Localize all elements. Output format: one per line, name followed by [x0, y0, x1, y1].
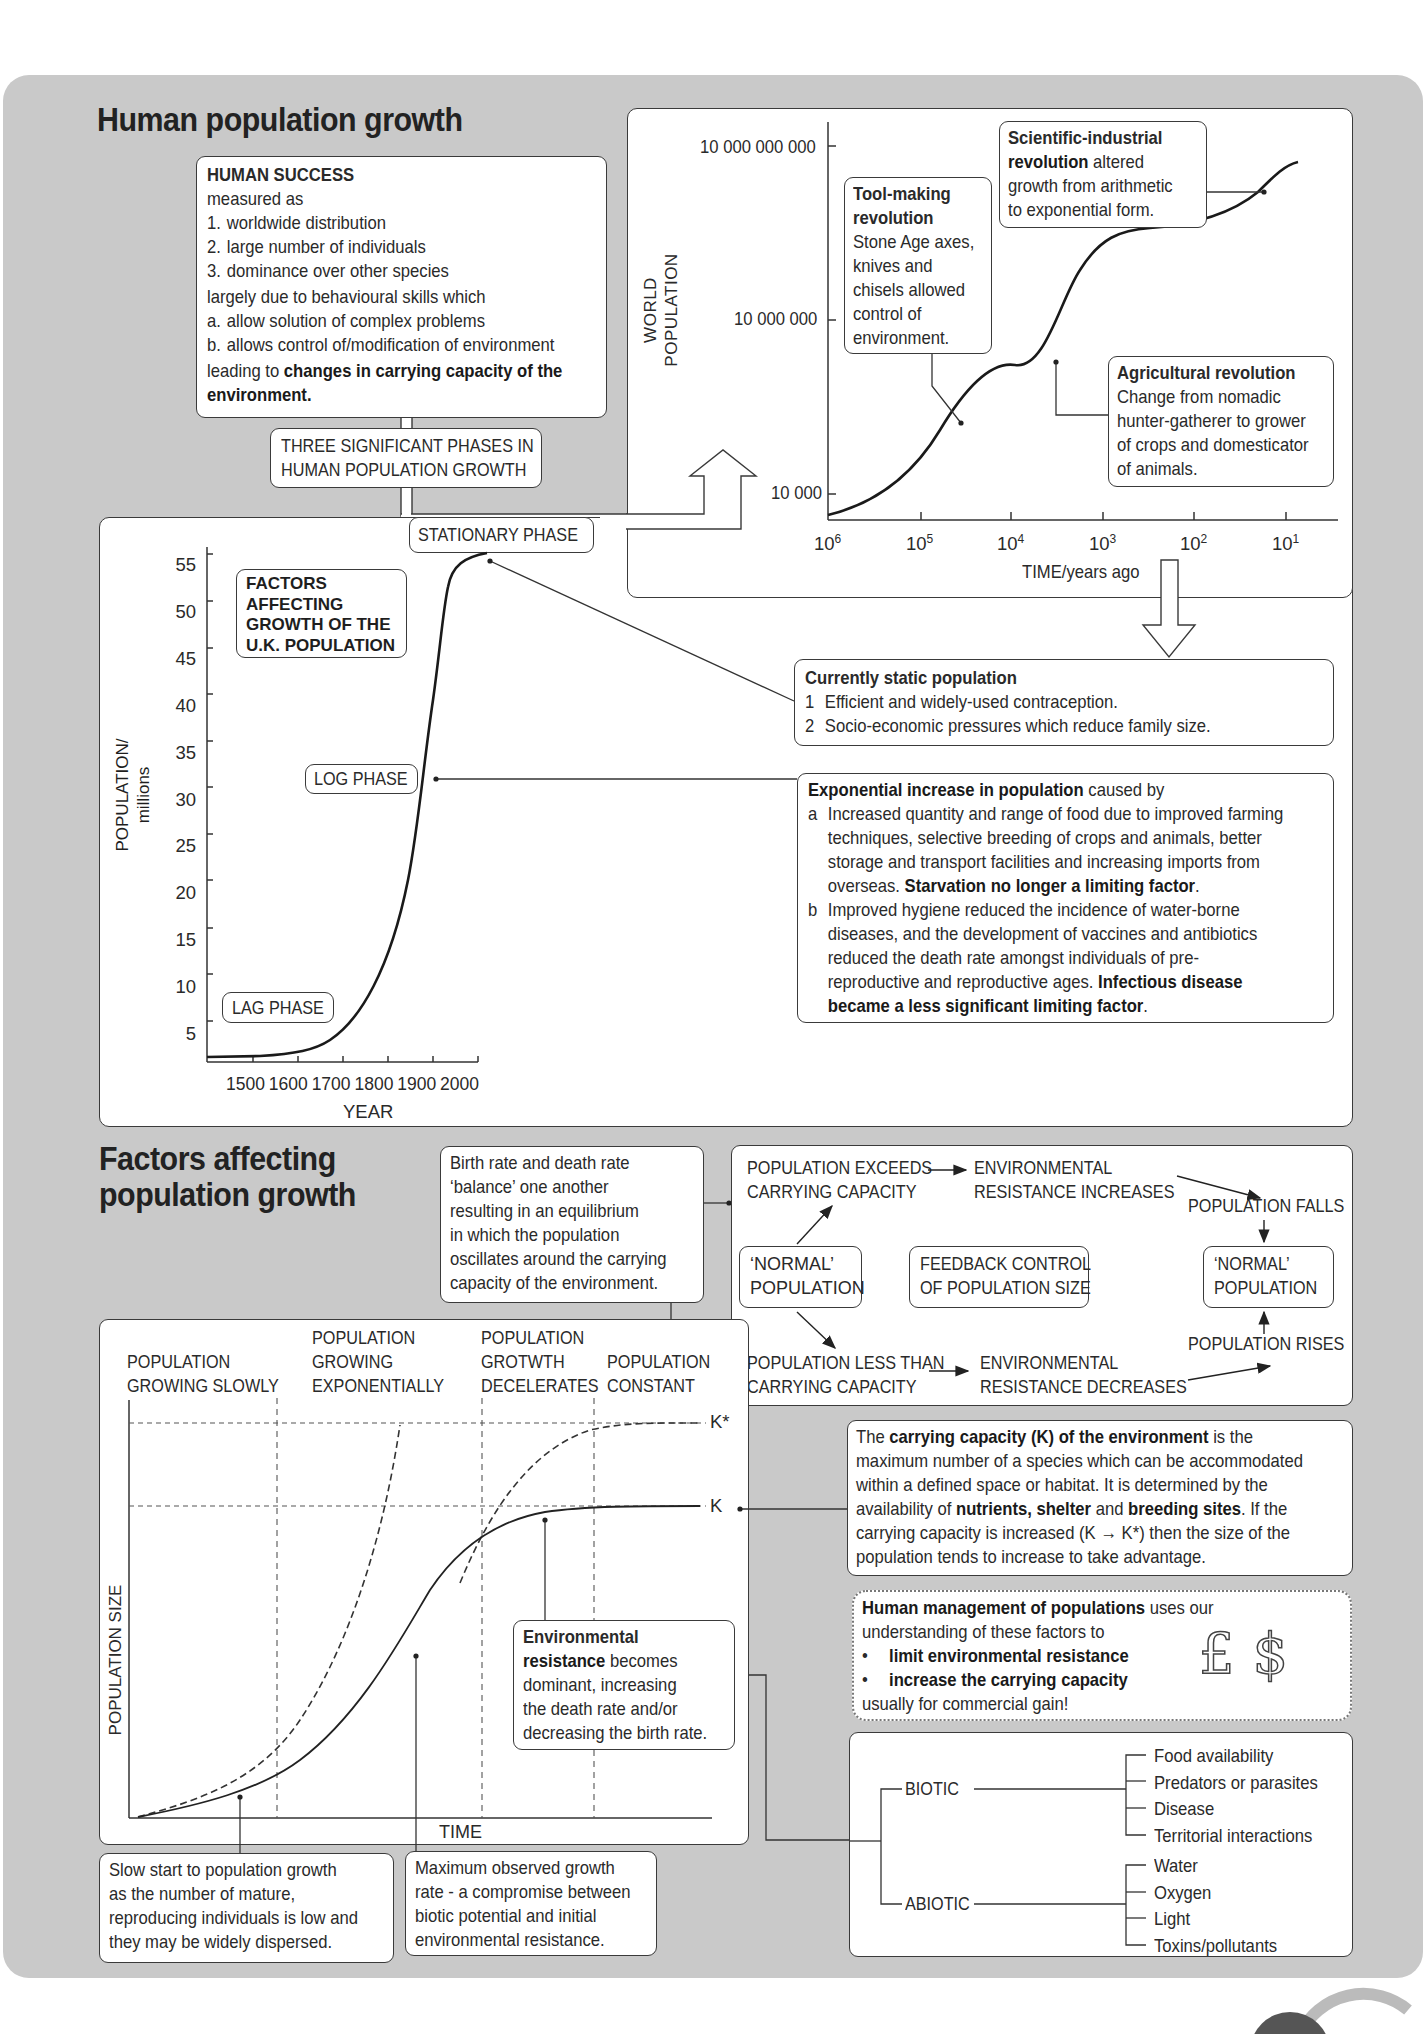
cc-line: population tends to increase to take adv…	[856, 1545, 1295, 1569]
decorative-page-corner	[1230, 1990, 1408, 2034]
hm-rest: uses our	[1145, 1597, 1213, 1618]
box-line: as the number of mature,	[109, 1882, 357, 1906]
currency-icons: £ $	[1199, 1624, 1288, 1684]
abiotic-item: Toxins/pollutants	[1154, 1933, 1277, 1960]
biotic-item: Predators or parasites	[1154, 1770, 1318, 1797]
cc-plain: . If the	[1241, 1498, 1287, 1519]
cc-line: maximum number of a species which can be…	[856, 1449, 1295, 1473]
env-line: decreasing the birth rate.	[523, 1721, 705, 1745]
biotic-item: Territorial interactions	[1154, 1823, 1318, 1850]
hm-bold: Human management of populations	[862, 1597, 1145, 1618]
hm-bullet-text: limit environmental resistance	[889, 1644, 1129, 1668]
env-heading: resistance	[523, 1650, 605, 1671]
carrying-capacity-box: The carrying capacity (K) of the environ…	[847, 1420, 1353, 1576]
box-line: environmental resistance.	[415, 1928, 624, 1952]
cc-line: within a defined space or habitat. It is…	[856, 1473, 1295, 1497]
biotic-label: BIOTIC	[905, 1777, 959, 1801]
human-management-box: Human management of populations uses our…	[852, 1590, 1352, 1721]
cc-bold: breeding sites	[1128, 1498, 1241, 1519]
bullet-icon: •	[862, 1668, 889, 1692]
bullet-icon: •	[862, 1644, 889, 1668]
cc-line: The carrying capacity (K) of the environ…	[856, 1425, 1295, 1449]
box-line: Maximum observed growth	[415, 1856, 624, 1880]
abiotic-item: Oxygen	[1154, 1880, 1277, 1907]
biotic-items: Food availability Predators or parasites…	[1154, 1743, 1318, 1849]
cc-line: availability of nutrients, shelter and b…	[856, 1497, 1295, 1521]
box-line: they may be widely dispersed.	[109, 1930, 357, 1954]
env-rest: becomes	[605, 1650, 677, 1671]
slow-start-box: Slow start to population growth as the n…	[99, 1853, 394, 1963]
k-star-label: K*	[710, 1410, 730, 1434]
cc-line: carrying capacity is increased (K → K*) …	[856, 1521, 1295, 1545]
dollar-icon: $	[1252, 1621, 1288, 1686]
cc-plain: is the	[1209, 1426, 1253, 1447]
environmental-resistance-box: Environmental resistance becomes dominan…	[513, 1620, 735, 1750]
abiotic-item: Water	[1154, 1853, 1277, 1880]
abiotic-items: Water Oxygen Light Toxins/pollutants	[1154, 1853, 1277, 1959]
env-line: dominant, increasing	[523, 1673, 705, 1697]
box-line: biotic potential and initial	[415, 1904, 624, 1928]
cc-bold: carrying capacity (K) of the environment	[889, 1426, 1208, 1447]
k-label: K	[710, 1494, 722, 1518]
abiotic-label: ABIOTIC	[905, 1892, 970, 1916]
hm-bullet-text: increase the carrying capacity	[889, 1668, 1128, 1692]
biotic-item: Disease	[1154, 1796, 1318, 1823]
env-line: the death rate and/or	[523, 1697, 705, 1721]
box-line: Slow start to population growth	[109, 1858, 357, 1882]
biotic-item: Food availability	[1154, 1743, 1318, 1770]
factors-tree-box: BIOTIC ABIOTIC Food availability Predato…	[849, 1732, 1353, 1957]
abiotic-item: Light	[1154, 1906, 1277, 1933]
cc-plain: availability of	[856, 1498, 956, 1519]
hm-line: Human management of populations uses our	[862, 1596, 1294, 1620]
max-growth-box: Maximum observed growth rate - a comprom…	[405, 1851, 657, 1956]
box-line: rate - a compromise between	[415, 1880, 624, 1904]
cc-plain: The	[856, 1426, 889, 1447]
cc-bold: nutrients, shelter	[956, 1498, 1091, 1519]
env-heading: Environmental	[523, 1625, 705, 1649]
env-line: resistance becomes	[523, 1649, 705, 1673]
cc-plain: and	[1091, 1498, 1128, 1519]
pound-icon: £	[1199, 1621, 1235, 1686]
hm-line: usually for commercial gain!	[862, 1692, 1294, 1716]
logistic-xlabel: TIME	[439, 1820, 482, 1844]
box-line: reproducing individuals is low and	[109, 1906, 357, 1930]
